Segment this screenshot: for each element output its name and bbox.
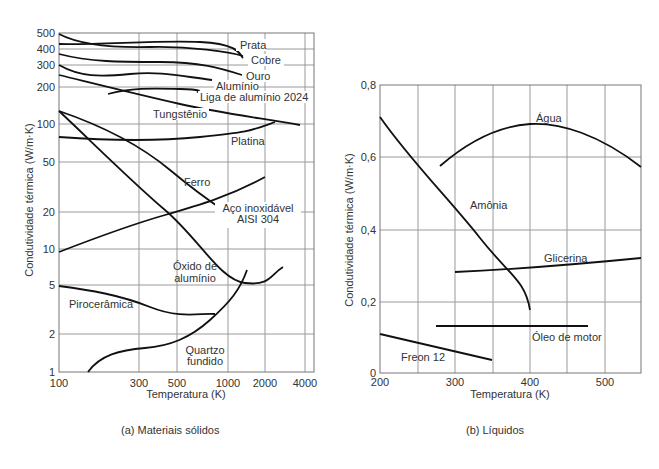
- svg-text:300: 300: [446, 376, 464, 388]
- y-axis-ticks: 1 2 5 10 20 50 100 200 300 400 500: [37, 27, 55, 378]
- label-oxido-2: alumínio: [174, 272, 216, 284]
- svg-text:4000: 4000: [293, 377, 317, 389]
- svg-text:2: 2: [49, 328, 55, 340]
- curve-labels-solids: Prata Cobre Ouro Alumínio Liga de alumín…: [69, 39, 308, 367]
- svg-text:200: 200: [37, 81, 55, 93]
- curve-aluminio: [59, 65, 212, 80]
- curve-prata: [59, 42, 243, 58]
- svg-text:0,8: 0,8: [361, 79, 376, 91]
- curve-liga: [108, 89, 199, 94]
- curve-agua: [440, 124, 641, 167]
- chart-liquids: 0 0,2 0,4 0,6 0,8 200 300 400 500 Temper…: [343, 79, 641, 400]
- figure-canvas: 1 2 5 10 20 50 100 200 300 400 500 100 3…: [0, 0, 659, 469]
- label-liga: Liga de alumínio 2024: [200, 91, 308, 103]
- svg-text:500: 500: [596, 376, 614, 388]
- svg-text:200: 200: [371, 376, 389, 388]
- svg-text:300: 300: [37, 59, 55, 71]
- label-freon: Freon 12: [401, 351, 445, 363]
- label-glicerina: Glicerina: [544, 252, 588, 264]
- svg-text:100: 100: [37, 118, 55, 130]
- y-axis-ticks-right: 0 0,2 0,4 0,6 0,8: [361, 79, 376, 379]
- grid-horizontal-right: [380, 157, 641, 302]
- svg-text:20: 20: [43, 206, 55, 218]
- label-quartzo-2: fundido: [187, 355, 223, 367]
- curve-cobre: [59, 34, 243, 56]
- svg-text:50: 50: [43, 156, 55, 168]
- label-aco-2: AISI 304: [237, 213, 279, 225]
- label-tungstenio: Tungstênio: [153, 108, 207, 120]
- curves-liquids: [380, 117, 641, 360]
- label-ferro: Ferro: [184, 176, 210, 188]
- svg-text:500: 500: [37, 27, 55, 39]
- x-axis-title-right: Temperatura (K): [470, 388, 549, 400]
- y-axis-title-right: Condutividade térmica (W/m·K): [343, 153, 355, 306]
- x-axis-ticks-right: 200 300 400 500: [371, 376, 614, 388]
- svg-text:400: 400: [521, 376, 539, 388]
- label-oleo: Óleo de motor: [532, 331, 602, 343]
- label-platina: Platina: [231, 135, 266, 147]
- svg-text:5: 5: [49, 279, 55, 291]
- chart-solids: 1 2 5 10 20 50 100 200 300 400 500 100 3…: [23, 27, 317, 400]
- y-axis-title: Condutividade térmica (W/m·K): [23, 123, 35, 276]
- svg-text:0,2: 0,2: [361, 296, 376, 308]
- x-axis-title: Temperatura (K): [146, 388, 225, 400]
- label-cobre: Cobre: [251, 54, 281, 66]
- grid-vertical-right: [418, 85, 605, 373]
- label-prata: Prata: [240, 39, 267, 51]
- svg-text:0,4: 0,4: [361, 224, 376, 236]
- label-amonia: Amônia: [470, 199, 508, 211]
- label-oxido-1: Óxido de: [173, 260, 217, 272]
- svg-text:100: 100: [50, 377, 68, 389]
- label-piroceramica: Pirocerâmica: [69, 298, 134, 310]
- svg-text:10: 10: [43, 243, 55, 255]
- plot-frame-right: [380, 85, 641, 373]
- svg-text:400: 400: [37, 43, 55, 55]
- caption-liquids: (b) Líquidos: [466, 424, 524, 436]
- svg-text:0,6: 0,6: [361, 151, 376, 163]
- svg-text:2000: 2000: [253, 377, 277, 389]
- caption-solids: (a) Materiais sólidos: [121, 424, 219, 436]
- label-agua: Água: [536, 112, 563, 124]
